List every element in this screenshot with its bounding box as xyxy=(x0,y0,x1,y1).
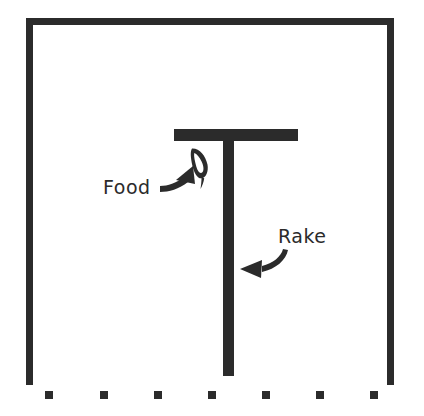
dotted-front-edge xyxy=(45,391,378,399)
edge-dot xyxy=(316,391,324,399)
rake-handle xyxy=(223,135,234,376)
edge-dot xyxy=(262,391,270,399)
edge-dot xyxy=(45,391,53,399)
boundary-right-wall xyxy=(387,18,394,385)
edge-dot xyxy=(208,391,216,399)
boundary-top-wall xyxy=(26,18,394,25)
rake-head xyxy=(174,129,298,141)
boundary-left-wall xyxy=(26,18,33,385)
diagram-canvas: Food Rake xyxy=(0,0,424,416)
apparatus-boundary xyxy=(26,18,394,385)
food-callout-arrow xyxy=(160,166,195,192)
diagram-svg: Food Rake xyxy=(0,0,424,416)
edge-dot xyxy=(154,391,162,399)
edge-dot xyxy=(100,391,108,399)
food-label: Food xyxy=(103,176,151,198)
edge-dot xyxy=(370,391,378,399)
rake-label: Rake xyxy=(278,225,326,247)
rake-callout-arrow xyxy=(240,249,288,278)
